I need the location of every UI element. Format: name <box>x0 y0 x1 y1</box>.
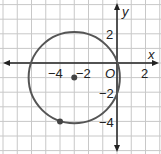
x-tick-neg4: −4 <box>48 66 63 81</box>
y-tick-neg2: −2 <box>99 86 114 101</box>
y-axis-label: y <box>121 4 130 19</box>
x-tick-neg2: −2 <box>76 66 91 81</box>
y-tick-2: 2 <box>106 27 113 42</box>
point-on-circle <box>57 118 63 124</box>
x-tick-2: 2 <box>141 66 148 81</box>
coordinate-graph: x y O −4 −2 2 2 −2 −4 <box>0 0 161 154</box>
y-axis-up-arrow-icon <box>114 3 120 10</box>
x-axis-label: x <box>147 47 155 62</box>
x-axis-left-arrow-icon <box>3 60 10 66</box>
y-tick-neg4: −4 <box>99 115 114 130</box>
origin-label: O <box>105 66 115 81</box>
